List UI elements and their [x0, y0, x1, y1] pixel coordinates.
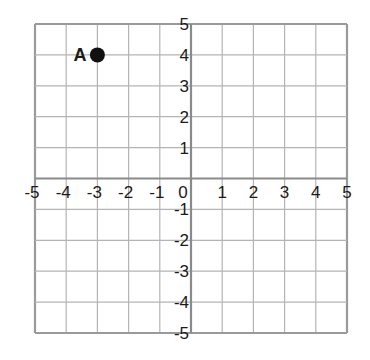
x-tick-label: -4 [56, 183, 71, 202]
y-tick-label: 3 [180, 77, 189, 96]
x-tick-label: 0 [178, 183, 187, 202]
x-tick-label: -2 [118, 183, 133, 202]
x-tick-label: -1 [149, 183, 164, 202]
y-tick-label: 5 [180, 15, 189, 34]
axes [35, 24, 347, 333]
y-tick-label: 4 [180, 46, 189, 65]
y-tick-label: -2 [174, 231, 189, 250]
x-axis-tick-labels: -5-4-3-2-1012345 [24, 183, 351, 202]
point-marker [90, 47, 105, 62]
x-tick-label: 3 [280, 183, 289, 202]
y-tick-label: 1 [180, 139, 189, 158]
point-label: A [73, 45, 86, 65]
x-tick-label: -3 [87, 183, 102, 202]
x-tick-label: 1 [217, 183, 226, 202]
y-tick-label: 2 [180, 108, 189, 127]
y-tick-label: -5 [174, 324, 189, 343]
coordinate-plane: -5-4-3-2-1012345 54321-1-2-3-4-5 A [0, 0, 370, 360]
x-tick-label: 4 [311, 183, 320, 202]
y-tick-label: -4 [174, 293, 189, 312]
x-tick-label: 2 [249, 183, 258, 202]
x-tick-label: -5 [24, 183, 39, 202]
y-tick-label: -1 [174, 200, 189, 219]
x-tick-label: 5 [342, 183, 351, 202]
y-tick-label: -3 [174, 262, 189, 281]
